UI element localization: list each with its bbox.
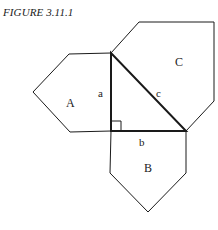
right-angle-marker bbox=[111, 121, 121, 131]
label-side-b: b bbox=[139, 136, 145, 148]
label-side-c: c bbox=[156, 87, 161, 99]
pythagorean-diagram: A a C c b B bbox=[0, 0, 218, 230]
label-region-a: A bbox=[66, 96, 75, 110]
label-region-c: C bbox=[175, 55, 183, 69]
label-side-a: a bbox=[98, 87, 103, 99]
pentagon-c bbox=[111, 22, 214, 131]
label-region-b: B bbox=[144, 161, 152, 175]
